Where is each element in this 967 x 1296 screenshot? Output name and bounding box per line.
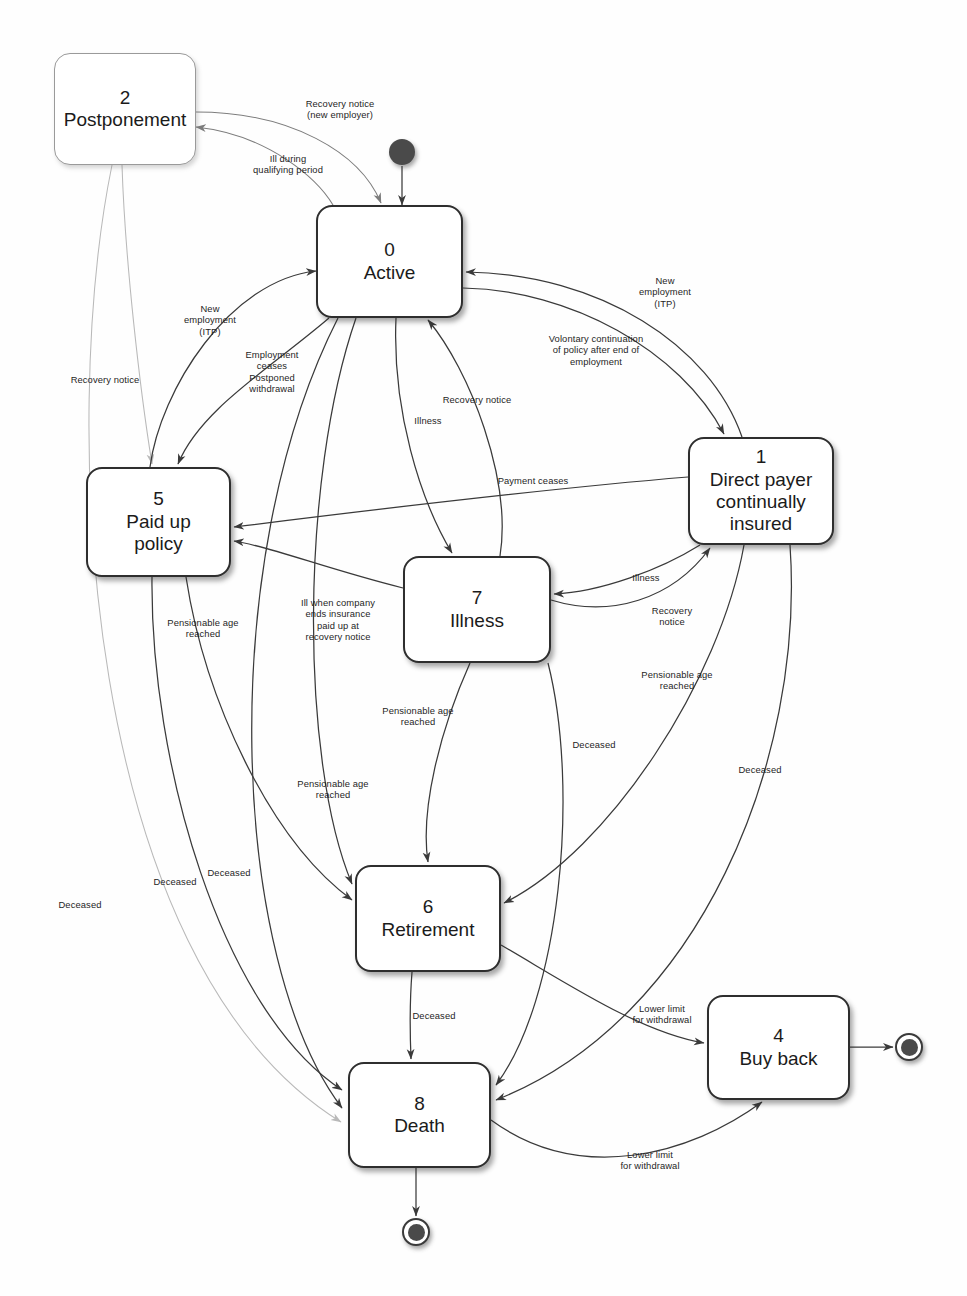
transition-illness-to-death	[496, 663, 563, 1085]
state-label-death: Death	[388, 1115, 451, 1137]
state-node-paid-up-policy[interactable]: 5 Paid up policy	[86, 467, 231, 577]
transition-active-to-postponement	[196, 127, 333, 205]
transition-directpayer-to-active	[466, 272, 742, 437]
state-id-retirement: 6	[423, 896, 434, 918]
initial-state-dot	[389, 139, 415, 165]
state-diagram-canvas: 0 Active 1 Direct payer continually insu…	[0, 0, 967, 1296]
state-id-direct-payer: 1	[756, 446, 767, 468]
state-node-death[interactable]: 8 Death	[348, 1062, 491, 1168]
state-node-postponement[interactable]: 2 Postponement	[54, 53, 196, 165]
transition-illness-to-paidup	[234, 541, 403, 588]
state-id-paid-up-policy: 5	[153, 488, 164, 510]
initial-state-icon	[389, 139, 415, 165]
final-state-ring-buyback	[895, 1033, 923, 1061]
transition-death-to-buyback	[491, 1102, 762, 1157]
final-state-ring-death	[402, 1218, 430, 1246]
state-label-paid-up-policy: Paid up policy	[120, 511, 196, 556]
transition-directpayer-to-illness	[554, 545, 700, 594]
state-label-postponement: Postponement	[58, 109, 193, 131]
transition-postponement-to-death	[89, 165, 341, 1122]
transition-active-to-directpayer	[463, 288, 724, 434]
state-node-active[interactable]: 0 Active	[316, 205, 463, 318]
final-state-buyback-icon	[895, 1033, 923, 1061]
state-label-illness: Illness	[444, 610, 510, 632]
state-id-buy-back: 4	[773, 1025, 784, 1047]
transition-illness-to-active	[428, 320, 502, 556]
transition-active-to-retirement	[313, 318, 356, 884]
transition-directpayer-to-paidup	[234, 477, 688, 527]
transition-postponement-to-paidup	[122, 165, 152, 464]
transition-retirement-to-death	[410, 972, 412, 1059]
state-id-active: 0	[384, 239, 395, 261]
transition-paidup-to-retirement	[186, 577, 352, 900]
state-node-retirement[interactable]: 6 Retirement	[355, 865, 501, 972]
state-id-illness: 7	[472, 587, 483, 609]
transition-postponement-to-active	[196, 112, 381, 203]
state-node-illness[interactable]: 7 Illness	[403, 556, 551, 663]
state-label-buy-back: Buy back	[733, 1048, 823, 1070]
state-node-buy-back[interactable]: 4 Buy back	[707, 995, 850, 1100]
state-id-postponement: 2	[120, 87, 131, 109]
state-label-active: Active	[358, 262, 422, 284]
transition-active-to-death	[252, 318, 342, 1108]
state-label-retirement: Retirement	[376, 919, 481, 941]
state-node-direct-payer[interactable]: 1 Direct payer continually insured	[688, 437, 834, 545]
state-id-death: 8	[414, 1093, 425, 1115]
transition-active-to-illness	[396, 318, 452, 553]
final-state-death-icon	[402, 1218, 430, 1246]
state-label-direct-payer: Direct payer continually insured	[704, 469, 818, 536]
transition-illness-to-retirement	[426, 663, 470, 862]
